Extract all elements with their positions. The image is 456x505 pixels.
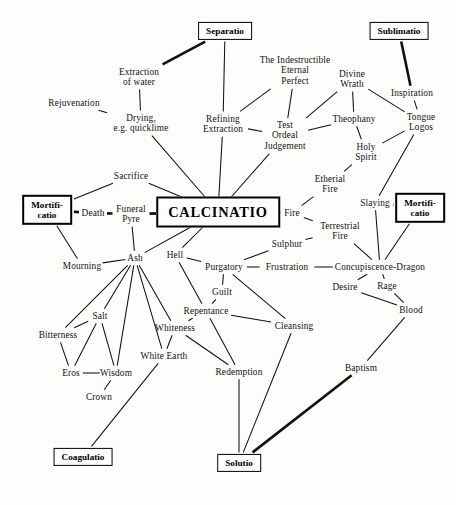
concept-node-divine_wrath[interactable]: DivineWrath <box>339 69 365 90</box>
stage-box-mortificatio_left[interactable]: Mortifi-catio <box>22 195 72 225</box>
edge-sulphur-to-terrestrial_fire <box>305 238 312 240</box>
edge-etherial_fire-to-fire <box>302 197 314 206</box>
concept-node-sacrifice[interactable]: Sacrifice <box>114 171 148 182</box>
concept-node-label: Slaying <box>360 198 389 209</box>
concept-node-tongue_logos[interactable]: TongueLogos <box>407 112 436 133</box>
edge-ash-to-white_earth <box>137 265 162 348</box>
concept-node-refining_extraction[interactable]: RefiningExtraction <box>203 114 243 135</box>
concept-node-label: Mourning <box>63 261 101 272</box>
edge-guilt-to-repentance <box>212 299 216 303</box>
stage-box-label: Separatio <box>206 26 244 36</box>
concept-node-rejuvenation[interactable]: Rejuvenation <box>48 98 99 109</box>
concept-node-crown[interactable]: Crown <box>86 392 112 403</box>
stage-box-label: Mortifi- <box>404 198 436 208</box>
concept-node-cleansing[interactable]: Cleansing <box>275 321 314 332</box>
concept-node-purgatory[interactable]: Purgatory <box>205 262 243 273</box>
concept-node-fire[interactable]: Fire <box>284 208 300 219</box>
concept-node-death[interactable]: Death <box>82 208 105 219</box>
concept-node-label: Frustration <box>266 262 308 273</box>
concept-node-etherial_fire[interactable]: EtherialFire <box>315 174 346 195</box>
edge-separatio-to-extraction_of_water <box>163 42 206 65</box>
stage-box-solutio[interactable]: Solutio <box>217 454 261 472</box>
concept-node-label: Extraction <box>119 67 159 77</box>
concept-node-indestructible[interactable]: The IndestructibleEternalPerfect <box>260 55 331 86</box>
concept-node-inspiration[interactable]: Inspiration <box>391 88 433 99</box>
stage-box-label: catio <box>31 210 63 220</box>
concept-node-label: Perfect <box>260 76 331 86</box>
concept-node-slaying[interactable]: Slaying <box>360 198 389 209</box>
concept-node-funeral_pyre[interactable]: FuneralPyre <box>116 204 145 225</box>
edge-repentance-to-cleansing <box>231 315 271 322</box>
concept-node-drying_quicklime[interactable]: Drying,e.g. quicklime <box>113 113 168 134</box>
concept-node-label: Theophany <box>332 114 375 125</box>
edge-mourning-to-ash <box>103 259 126 262</box>
edge-holy_spirit-to-tongue_logos <box>382 131 405 143</box>
concept-node-frustration[interactable]: Frustration <box>266 262 308 273</box>
stage-box-sublimatio[interactable]: Sublimatio <box>370 22 429 40</box>
concept-node-blood[interactable]: Blood <box>399 305 422 316</box>
concept-node-rage[interactable]: Rage <box>377 281 397 292</box>
concept-node-desire[interactable]: Desire <box>332 282 357 293</box>
edge-hell-to-purgatory <box>187 258 201 262</box>
concept-node-eros[interactable]: Eros <box>62 368 80 379</box>
concept-node-label: Blood <box>399 305 422 316</box>
concept-node-holy_spirit[interactable]: HolySpirit <box>355 142 377 163</box>
edge-repentance-to-whiteness <box>188 318 192 320</box>
concept-node-label: Holy <box>355 142 377 152</box>
edge-whiteness-to-white_earth <box>167 335 172 348</box>
concept-node-label: Redemption <box>216 367 263 378</box>
concept-node-label: Repentance <box>184 306 229 317</box>
concept-node-whiteness[interactable]: Whiteness <box>155 323 195 334</box>
concept-node-label: Divine <box>339 69 365 79</box>
edge-cleansing-to-solutio <box>243 333 291 452</box>
diagram-canvas: CALCINATIOSeparatioSublimatioMortifi-cat… <box>0 0 456 505</box>
edge-drying_quicklime-to-center <box>152 136 206 198</box>
edge-wisdom-to-crown <box>104 380 111 389</box>
concept-node-concupiscence_dragon[interactable]: Concupiscence-Dragon <box>335 262 425 273</box>
concept-node-salt[interactable]: Salt <box>92 311 107 322</box>
stage-box-label: catio <box>404 208 436 218</box>
center-node-calcinatio[interactable]: CALCINATIO <box>156 197 280 228</box>
concept-node-wisdom[interactable]: Wisdom <box>100 368 132 379</box>
concept-node-sulphur[interactable]: Sulphur <box>272 239 303 250</box>
concept-node-label: Pyre <box>116 214 145 224</box>
concept-node-label: Extraction <box>203 124 243 134</box>
concept-node-redemption[interactable]: Redemption <box>216 367 263 378</box>
concept-node-label: The Indestructible <box>260 55 331 65</box>
edge-center-to-sacrifice <box>149 183 183 197</box>
concept-node-bitterness[interactable]: Bitterness <box>39 330 78 341</box>
edge-terrestrial_fire-to-concupiscence_dragon <box>354 244 372 260</box>
concept-node-mourning[interactable]: Mourning <box>63 261 101 272</box>
concept-node-terrestrial_fire[interactable]: TerrestrialFire <box>320 221 360 242</box>
concept-node-ash[interactable]: Ash <box>127 253 142 264</box>
concept-node-label: e.g. quicklime <box>113 123 168 133</box>
edge-center-to-hell <box>182 227 203 248</box>
edge-purgatory-to-guilt <box>223 274 224 284</box>
edge-blood-to-baptism <box>367 317 404 360</box>
stage-box-mortificatio_right[interactable]: Mortifi-catio <box>395 193 445 223</box>
concept-node-label: Judgement <box>264 141 306 151</box>
concept-node-label: Wisdom <box>100 368 132 379</box>
stage-box-label: Mortifi- <box>31 200 63 210</box>
edge-ash-to-salt <box>104 265 130 308</box>
concept-node-test_ordeal_judgement[interactable]: TestOrdealJudgement <box>264 120 306 151</box>
concept-node-baptism[interactable]: Baptism <box>345 363 377 374</box>
stage-box-coagulatio[interactable]: Coagulatio <box>54 448 113 466</box>
concept-node-extraction_of_water[interactable]: Extractionof water <box>119 67 159 88</box>
stage-box-label: Coagulatio <box>62 452 105 462</box>
edge-fire-to-terrestrial_fire <box>304 217 313 220</box>
concept-node-theophany[interactable]: Theophany <box>332 114 375 125</box>
concept-node-white_earth[interactable]: White Earth <box>141 351 188 362</box>
concept-node-guilt[interactable]: Guilt <box>212 287 232 298</box>
stage-box-separatio[interactable]: Separatio <box>198 22 252 40</box>
edge-salt-to-eros <box>75 323 97 365</box>
concept-node-label: Purgatory <box>205 262 243 273</box>
concept-node-hell[interactable]: Hell <box>167 250 184 261</box>
edge-bitterness-to-eros <box>61 342 69 365</box>
concept-node-label: Desire <box>332 282 357 293</box>
edge-sulphur-to-purgatory <box>244 251 269 260</box>
concept-node-label: Logos <box>407 122 436 132</box>
concept-node-repentance[interactable]: Repentance <box>184 306 229 317</box>
edge-divine_wrath-to-theophany <box>353 92 354 112</box>
edge-repentance-to-redemption <box>210 318 235 364</box>
